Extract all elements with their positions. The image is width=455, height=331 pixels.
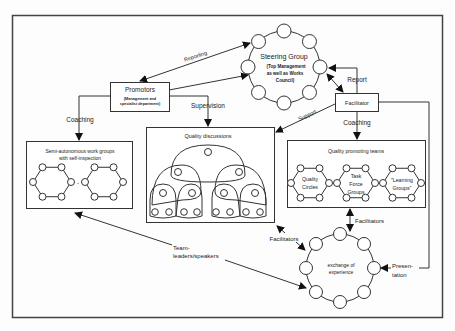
member-node (297, 165, 304, 172)
member-node (30, 179, 37, 186)
exchange-of-experience-ring: exchange of experience (300, 228, 381, 309)
facilitator-box: Facilitator (336, 94, 379, 112)
member-node (362, 165, 369, 172)
group-quality-circles-line2: Circles (302, 184, 318, 190)
quality-discussions-title: Quality discussions (184, 133, 231, 139)
member-node (372, 180, 379, 187)
facilitators-center-label: Facilitators (269, 236, 298, 242)
promotors-box: Promotors (Management and specialist dep… (111, 83, 170, 112)
presentation-label-2: tation (392, 272, 407, 278)
promotors-subtitle-2: specialist department) (120, 102, 161, 106)
member-node (389, 165, 396, 172)
member-node (389, 194, 396, 201)
supervision-connector (169, 96, 208, 126)
member-node (316, 165, 323, 172)
member-node (213, 209, 220, 216)
facilitator-title: Facilitator (345, 100, 369, 106)
member-node (302, 85, 316, 99)
member-node (181, 209, 188, 216)
member-node (68, 179, 75, 186)
member-node (110, 164, 117, 171)
member-node (58, 164, 65, 171)
member-node (252, 35, 266, 49)
supervision-label: Supervision (191, 102, 225, 110)
group-task-force-line3: Groups (347, 189, 364, 195)
promotors-to-steering-connector (169, 75, 248, 90)
team-leaders-label-2: leaders/speakers (173, 253, 219, 259)
diagram-canvas: Steering Group (Top Management as well a… (0, 0, 455, 331)
semi-autonomous-title-1: Semi-autonomous work groups (45, 148, 115, 154)
member-node (227, 209, 234, 216)
exchange-line1: exchange of (327, 262, 355, 268)
support-label: Support (297, 108, 317, 122)
group-task-force-line1: Task (351, 173, 362, 179)
member-node (380, 180, 387, 187)
group-learning-line1: "Learning (391, 177, 413, 183)
member-node (110, 193, 117, 200)
member-node (368, 262, 381, 275)
semi-autonomous-box: Semi-autonomous work groups with self-in… (27, 142, 133, 209)
member-node (243, 209, 250, 216)
steering-facilitator-connector (327, 74, 343, 92)
member-node (309, 286, 322, 299)
member-node (343, 165, 350, 172)
member-node (257, 209, 264, 216)
facilitators-center-connector-b (296, 242, 305, 250)
member-node (288, 180, 295, 187)
member-node (241, 60, 255, 74)
member-node (358, 286, 371, 299)
member-node (358, 237, 371, 250)
steering-group-ring: Steering Group (Top Management as well a… (241, 24, 327, 110)
member-node (297, 194, 304, 201)
member-node (166, 209, 173, 216)
member-node (82, 179, 89, 186)
coaching-left-label: Coaching (66, 116, 94, 124)
member-node (334, 296, 347, 309)
team-leaders-connector-b (225, 260, 306, 288)
quality-discussions-box: Quality discussions (147, 128, 275, 223)
member-node (343, 194, 350, 201)
member-node (408, 194, 415, 201)
coaching-right-label: Coaching (343, 119, 371, 127)
exchange-line2: experience (329, 269, 354, 275)
facilitators-right-label: Facilitators (355, 218, 384, 224)
member-node (408, 165, 415, 172)
member-node (91, 193, 98, 200)
member-node (152, 209, 159, 216)
team-leaders-label-1: Team- (173, 245, 190, 251)
member-node (334, 180, 341, 187)
steering-group-subtitle-1: (Top Management (267, 64, 306, 69)
member-node (316, 194, 323, 201)
member-node (302, 35, 316, 49)
steering-group-subtitle-2: as well as Works (267, 71, 304, 76)
steering-group-title: Steering Group (260, 53, 308, 61)
presentation-label-1: Presen- (392, 263, 413, 269)
promotors-title: Promotors (125, 86, 156, 93)
report-label: Report (347, 76, 367, 84)
member-node (418, 180, 425, 187)
quality-promoting-teams-box: Quality promoting teams Quality Circles … (288, 141, 426, 208)
member-node (326, 180, 333, 187)
member-node (334, 228, 347, 241)
semi-autonomous-separator: - (77, 180, 79, 186)
member-node (120, 179, 127, 186)
group-quality-circles-line1: Quality (302, 176, 319, 182)
member-node (39, 193, 46, 200)
steering-group-subtitle-3: Council) (276, 78, 295, 83)
group-task-force-line2: Force (349, 181, 362, 187)
member-node (277, 24, 291, 38)
member-node (194, 209, 201, 216)
member-node (91, 164, 98, 171)
member-node (313, 60, 327, 74)
facilitators-center-connector-a (277, 226, 285, 233)
quality-promoting-teams-title: Quality promoting teams (328, 148, 385, 154)
reporting-connector (140, 43, 250, 81)
group-learning-line2: Groups" (393, 185, 412, 191)
reporting-label: Reporting (183, 50, 208, 63)
member-node (300, 262, 313, 275)
member-node (309, 237, 322, 250)
member-node (362, 194, 369, 201)
member-node (252, 85, 266, 99)
member-node (39, 164, 46, 171)
semi-autonomous-title-2: with self-inspection (59, 155, 101, 161)
